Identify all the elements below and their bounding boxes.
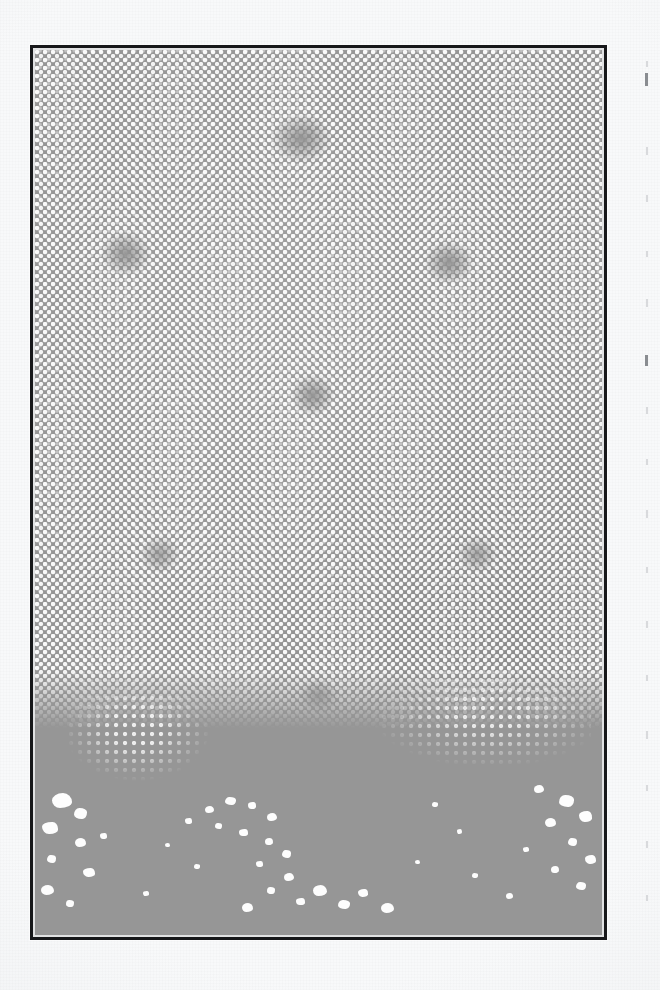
halftone-dot-layer-c (35, 50, 602, 935)
blob (47, 855, 56, 863)
blob (551, 866, 559, 873)
blob (381, 903, 394, 913)
blob (242, 903, 253, 912)
bottom-flat-gray-field (35, 670, 602, 936)
blob (534, 785, 544, 793)
blob (523, 847, 529, 852)
blob (585, 855, 596, 864)
halftone-photograph (35, 50, 602, 935)
show-through-speck (646, 675, 648, 681)
blob (83, 868, 95, 877)
scanned-page (0, 0, 660, 990)
blob (52, 793, 72, 808)
blob (194, 864, 200, 869)
blob (506, 893, 513, 899)
show-through-speck (646, 785, 648, 791)
show-through-speck (646, 251, 648, 257)
blob (545, 818, 556, 827)
show-through-speck (646, 895, 648, 901)
blob (579, 811, 592, 822)
blob (568, 838, 577, 846)
blob (239, 829, 248, 836)
blob (215, 823, 222, 829)
blob (256, 861, 263, 867)
blob (415, 860, 420, 864)
show-through-speck (646, 510, 648, 518)
blob (576, 882, 586, 890)
blob (75, 838, 86, 847)
blob (225, 797, 236, 805)
show-through-speck (646, 147, 648, 155)
blob (100, 833, 107, 839)
blowout-blob-field (35, 50, 602, 935)
show-through-speck (646, 61, 648, 67)
blob (559, 795, 574, 807)
show-through-speck (646, 841, 648, 848)
blob (248, 802, 256, 809)
show-through-speck (646, 731, 648, 739)
show-through-speck (646, 195, 648, 202)
show-through-speck (645, 355, 648, 366)
show-through-speck (646, 621, 648, 628)
blob (42, 822, 58, 834)
blob (143, 891, 149, 896)
blob (432, 802, 438, 807)
blob (472, 873, 478, 878)
blob (205, 806, 214, 813)
show-through-speck (645, 73, 648, 86)
blob (267, 887, 275, 894)
photographic-plate-frame (30, 45, 607, 940)
halftone-dot-layer-a (35, 50, 602, 935)
blob (265, 838, 273, 845)
blob (74, 808, 87, 819)
halftone-fade-mask (35, 50, 602, 935)
show-through-speck (646, 407, 648, 414)
plate-tone-map (35, 50, 602, 935)
blob (267, 813, 277, 821)
blob (165, 843, 170, 847)
blob (296, 898, 305, 905)
blob (282, 850, 291, 858)
blob (66, 900, 74, 907)
blob (313, 885, 327, 896)
show-through-speck (646, 459, 648, 465)
residual-dot-arc-left (69, 696, 239, 802)
blob (457, 829, 462, 834)
blob (338, 900, 350, 909)
right-margin-show-through (636, 55, 650, 935)
blob (358, 889, 368, 897)
residual-dot-arc-right (364, 670, 591, 794)
blob (284, 873, 294, 881)
blob (41, 885, 54, 895)
show-through-speck (646, 299, 648, 307)
show-through-speck (646, 567, 648, 573)
blob (185, 818, 192, 824)
halftone-dot-layer-b (35, 50, 602, 935)
